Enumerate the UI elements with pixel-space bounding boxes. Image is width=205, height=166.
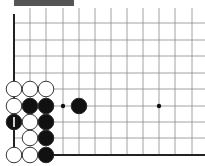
black-stone-icon[interactable] [38,98,54,114]
white-stone-icon[interactable] [22,81,38,97]
white-stone-icon[interactable] [6,147,22,163]
black-stone-icon[interactable] [38,114,54,130]
black-stone-icon[interactable] [22,98,38,114]
dot-marker-icon [61,104,65,108]
black-stone-icon[interactable] [38,147,54,163]
black-stone-icon[interactable] [71,98,87,114]
star-point-icon [157,104,161,108]
go-board[interactable] [0,0,205,166]
white-stone-icon[interactable] [22,114,38,130]
white-stone-icon[interactable] [22,130,38,146]
white-stone-icon[interactable] [6,98,22,114]
white-stone-icon[interactable] [6,81,22,97]
white-stone-icon[interactable] [38,81,54,97]
white-stone-icon[interactable] [22,147,38,163]
black-stone-icon[interactable] [38,130,54,146]
go-board-canvas[interactable] [0,0,205,166]
